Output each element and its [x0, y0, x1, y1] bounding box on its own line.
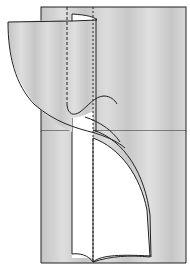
white-lining-strip [72, 110, 93, 258]
fabric-diagram [0, 0, 190, 278]
folded-flap [8, 18, 96, 132]
